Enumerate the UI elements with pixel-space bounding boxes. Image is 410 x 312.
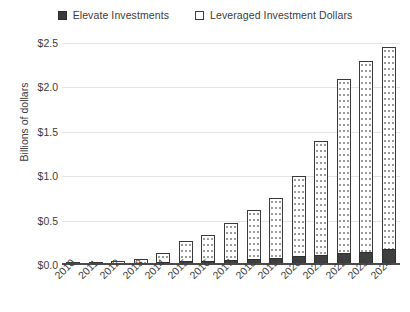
bar-stack[interactable] — [314, 141, 328, 265]
y-axis-tick-label: $1.5 — [2, 126, 58, 138]
bar-column[interactable] — [265, 43, 288, 265]
bar-stack[interactable] — [337, 79, 351, 265]
bar-segment-leveraged-investment-dollars[interactable] — [382, 47, 396, 249]
bar-column[interactable] — [310, 43, 333, 265]
bar-segment-leveraged-investment-dollars[interactable] — [314, 141, 328, 256]
bar-segment-leveraged-investment-dollars[interactable] — [359, 61, 373, 252]
bar-series-group — [62, 43, 400, 265]
y-axis-tick-labels: $0.0$0.5$1.0$1.5$2.0$2.5 — [0, 43, 58, 265]
filled-square-icon — [58, 11, 67, 20]
legend-item-elevate-investments: Elevate Investments — [58, 9, 169, 21]
y-axis-tick-label: $1.0 — [2, 170, 58, 182]
bar-column[interactable] — [62, 43, 85, 265]
plot-area — [62, 43, 400, 265]
legend-label-leveraged-investment-dollars: Leveraged Investment Dollars — [210, 9, 352, 21]
stacked-bar-chart: Elevate Investments Leveraged Investment… — [0, 0, 410, 312]
chart-legend: Elevate Investments Leveraged Investment… — [0, 4, 410, 26]
bar-column[interactable] — [85, 43, 108, 265]
y-axis-tick-label: $2.5 — [2, 37, 58, 49]
bar-column[interactable] — [107, 43, 130, 265]
bar-column[interactable] — [197, 43, 220, 265]
bar-segment-leveraged-investment-dollars[interactable] — [269, 198, 283, 258]
bar-stack[interactable] — [269, 198, 283, 265]
y-axis-tick-label: $0.5 — [2, 215, 58, 227]
legend-label-elevate-investments: Elevate Investments — [73, 9, 169, 21]
x-axis-tick-labels: 2010201120122013201420152016201720182019… — [62, 266, 400, 312]
legend-item-leveraged-investment-dollars: Leveraged Investment Dollars — [195, 9, 352, 21]
bar-column[interactable] — [175, 43, 198, 265]
bar-segment-leveraged-investment-dollars[interactable] — [224, 223, 238, 259]
open-square-icon — [195, 11, 204, 20]
bar-stack[interactable] — [382, 47, 396, 265]
bar-segment-leveraged-investment-dollars[interactable] — [337, 79, 351, 254]
bar-column[interactable] — [152, 43, 175, 265]
bar-column[interactable] — [287, 43, 310, 265]
bar-column[interactable] — [377, 43, 400, 265]
bar-segment-leveraged-investment-dollars[interactable] — [247, 210, 261, 259]
bar-column[interactable] — [242, 43, 265, 265]
y-axis-tick-label: $2.0 — [2, 81, 58, 93]
x-axis-tick-column: 2024 — [377, 266, 400, 312]
bar-stack[interactable] — [292, 176, 306, 265]
bar-stack[interactable] — [359, 61, 373, 265]
bar-column[interactable] — [130, 43, 153, 265]
y-axis-tick-label: $0.0 — [2, 259, 58, 271]
bar-column[interactable] — [220, 43, 243, 265]
bar-segment-leveraged-investment-dollars[interactable] — [292, 176, 306, 256]
bar-column[interactable] — [355, 43, 378, 265]
bar-column[interactable] — [332, 43, 355, 265]
